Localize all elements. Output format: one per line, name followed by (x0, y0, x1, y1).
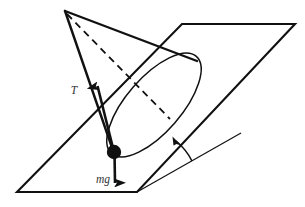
cone-right-edge (65, 11, 197, 61)
weight-label: mg (96, 173, 110, 186)
conical-pendulum-diagram: T mg (0, 0, 305, 207)
cone-body (65, 11, 197, 152)
weight-vector (115, 152, 116, 183)
incline-angle-indicator (137, 133, 241, 192)
plane-outline (17, 24, 295, 192)
inclined-plane (17, 24, 295, 192)
angle-arc-arrowhead (173, 137, 182, 146)
angle-reference-line (137, 133, 241, 192)
physics-diagram-figure: T mg (0, 0, 305, 207)
weight-arrow-shaft (115, 152, 116, 183)
tension-label: T (71, 84, 79, 96)
cone-left-edge (65, 11, 114, 152)
